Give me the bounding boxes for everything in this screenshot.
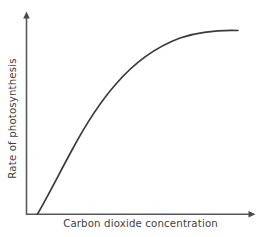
y-axis-label-text: Rate of photosynthesis: [8, 58, 18, 178]
x-axis-arrow-icon: [249, 211, 256, 218]
y-axis-label: Rate of photosynthesis: [13, 0, 131, 237]
photosynthesis-co2-chart: Carbon dioxide concentration Rate of pho…: [0, 0, 269, 237]
